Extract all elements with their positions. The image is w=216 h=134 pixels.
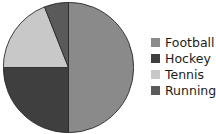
pie-slice-football[interactable] (69, 2, 134, 132)
legend-item-hockey[interactable]: Hockey (151, 50, 216, 66)
legend-label-hockey: Hockey (165, 52, 211, 65)
legend-swatch-tennis-icon (151, 70, 160, 79)
legend-label-running: Running (165, 84, 216, 97)
legend-label-tennis: Tennis (165, 68, 204, 81)
legend-swatch-hockey-icon (151, 54, 160, 63)
pie-slice-hockey[interactable] (3, 68, 68, 133)
pie-chart-svg (3, 2, 134, 133)
pie-slice-group (3, 2, 133, 132)
legend-item-tennis[interactable]: Tennis (151, 66, 216, 82)
legend-swatch-running-icon (151, 86, 160, 95)
pie-chart-figure: Football Hockey Tennis Running (0, 0, 216, 134)
legend-item-running[interactable]: Running (151, 82, 216, 98)
legend-swatch-football-icon (151, 38, 160, 47)
legend-label-football: Football (165, 36, 214, 49)
legend-item-football[interactable]: Football (151, 34, 216, 50)
chart-legend: Football Hockey Tennis Running (151, 34, 216, 98)
pie-chart-plot-area (3, 2, 134, 133)
